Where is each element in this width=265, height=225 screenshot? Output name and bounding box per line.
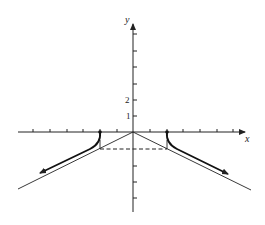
right-asymptote — [133, 132, 251, 190]
y-axis-label: y — [124, 14, 130, 25]
x-axis: x — [18, 129, 250, 144]
asymptotes — [18, 132, 251, 190]
y-axis-ticks — [133, 34, 137, 198]
right-endpoint-dot — [165, 130, 169, 134]
graph-figure: x y 2 1 — [0, 0, 265, 225]
curves — [40, 132, 228, 174]
y-tick-label-2: 2 — [125, 95, 130, 105]
left-asymptote — [18, 132, 133, 189]
y-axis: y 2 1 — [124, 14, 137, 212]
y-tick-label-1: 1 — [126, 111, 131, 121]
x-axis-label: x — [244, 133, 250, 144]
left-endpoint-dot — [98, 130, 102, 134]
